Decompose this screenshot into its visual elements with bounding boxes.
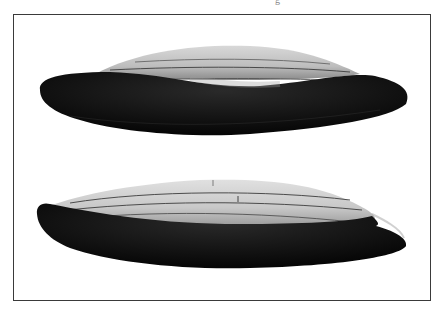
lower-specimen (37, 180, 406, 269)
specimen-plate (0, 0, 447, 317)
upper-specimen (40, 46, 408, 136)
